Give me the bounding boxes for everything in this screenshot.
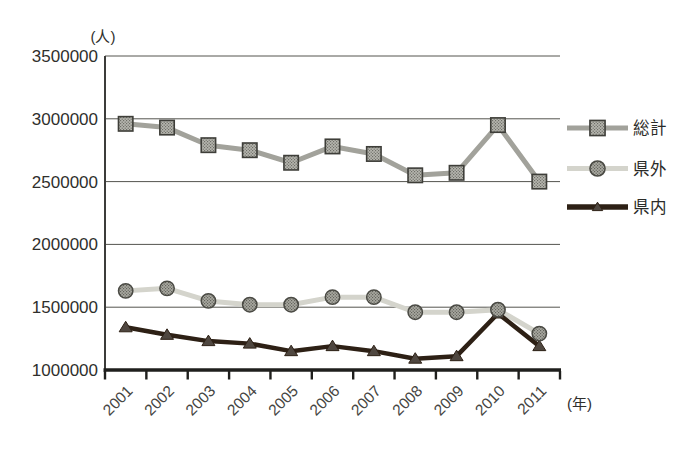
square-marker <box>590 120 605 135</box>
legend: 総計県外県内 <box>567 119 667 216</box>
y-tick-label: 3000000 <box>32 110 98 129</box>
x-tick-label: 2003 <box>182 382 218 418</box>
x-tick-label: 2010 <box>472 382 509 419</box>
circle-marker <box>201 294 215 308</box>
x-tick-label: 2006 <box>306 382 342 418</box>
circle-marker <box>243 297 257 311</box>
square-marker <box>118 117 132 131</box>
line-chart: 3500000300000025000002000000150000010000… <box>0 0 678 455</box>
x-tick-label: 2005 <box>265 382 301 418</box>
y-tick-label: 2000000 <box>32 235 98 254</box>
square-marker <box>201 138 215 152</box>
circle-marker <box>449 305 463 319</box>
circle-marker <box>408 305 422 319</box>
y-tick-label: 1500000 <box>32 298 98 317</box>
legend-item-outside-prefecture: 県外 <box>567 160 667 178</box>
square-marker <box>408 168 422 182</box>
x-tick-label: 2008 <box>389 382 425 418</box>
x-axis-unit-label: (年) <box>567 395 592 412</box>
y-tick-label: 2500000 <box>32 173 98 192</box>
square-marker <box>532 174 546 188</box>
axes <box>104 56 562 372</box>
x-tick-label: 2001 <box>99 382 135 418</box>
legend-label-inside-prefecture: 県内 <box>633 198 667 216</box>
x-tick-label: 2002 <box>141 382 177 418</box>
square-marker <box>325 139 339 153</box>
legend-item-inside-prefecture: 県内 <box>567 198 667 216</box>
legend-label-outside-prefecture: 県外 <box>633 160 667 178</box>
x-tick-label: 2004 <box>223 382 260 419</box>
gridlines <box>105 56 560 307</box>
y-tick-label: 3500000 <box>32 47 98 66</box>
circle-marker <box>590 161 605 176</box>
square-marker <box>160 120 174 134</box>
y-axis-unit-label: (人) <box>91 28 116 45</box>
circle-marker <box>118 284 132 298</box>
x-tick-label: 2011 <box>514 382 550 418</box>
line-chart-figure: 3500000300000025000002000000150000010000… <box>0 0 678 455</box>
x-axis-labels: 2001200220032004200520062007200820092010… <box>99 382 549 419</box>
series-line-inside-prefecture <box>126 313 540 358</box>
legend-label-total: 総計 <box>633 119 667 137</box>
square-marker <box>284 156 298 170</box>
x-axis-ticks <box>105 371 560 380</box>
circle-marker <box>160 281 174 295</box>
circle-marker <box>367 290 381 304</box>
x-tick-label: 2009 <box>430 382 466 418</box>
circle-marker <box>532 326 546 340</box>
y-axis-labels: 3500000300000025000002000000150000010000… <box>32 47 98 380</box>
legend-item-total: 総計 <box>567 119 667 137</box>
square-marker <box>243 143 257 157</box>
series-markers-total <box>118 117 546 189</box>
square-marker <box>449 166 463 180</box>
x-tick-label: 2007 <box>348 382 384 418</box>
square-marker <box>367 147 381 161</box>
square-marker <box>491 118 505 132</box>
circle-marker <box>284 297 298 311</box>
circle-marker <box>491 303 505 317</box>
circle-marker <box>325 290 339 304</box>
y-tick-label: 1000000 <box>32 361 98 380</box>
